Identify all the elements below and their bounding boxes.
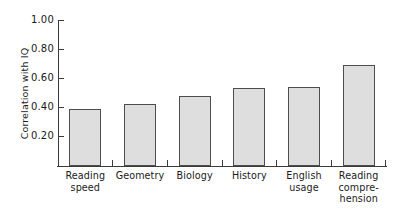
x-tick-mark-3: [276, 160, 277, 166]
x-label-biology: Biology: [167, 170, 222, 182]
x-label-reading-comprehension: Readingcompre-hension: [331, 170, 386, 205]
x-tick-mark-2: [222, 160, 223, 166]
bar-reading-comprehension[interactable]: [343, 65, 375, 166]
x-label-history: History: [222, 170, 277, 182]
bar-reading-speed[interactable]: [69, 109, 101, 166]
y-axis-line: [58, 20, 59, 167]
x-label-reading-speed: Readingspeed: [58, 170, 113, 193]
x-tick-mark-5: [385, 160, 386, 166]
bar-biology[interactable]: [179, 96, 211, 166]
x-axis-line: [57, 166, 387, 167]
y-tick-mark-0-20: [59, 136, 64, 137]
x-label-english-usage: Englishusage: [277, 170, 332, 193]
y-axis-title: Correlation with IQ: [19, 24, 30, 164]
bar-geometry[interactable]: [124, 104, 156, 166]
plot-area: [58, 20, 386, 166]
y-tick-mark-0-60: [59, 78, 64, 79]
x-tick-mark-4: [331, 160, 332, 166]
x-tick-mark-0: [112, 160, 113, 166]
y-tick-mark-0-80: [59, 49, 64, 50]
bar-chart: 1.00 0.80 0.60 0.40 0.20 Correlation wit…: [0, 0, 402, 214]
x-tick-mark-1: [167, 160, 168, 166]
x-axis-category-labels: Readingspeed Geometry Biology History En…: [58, 170, 386, 214]
y-tick-mark-0-40: [59, 107, 64, 108]
bar-english-usage[interactable]: [288, 87, 320, 166]
x-label-geometry: Geometry: [113, 170, 168, 182]
y-tick-mark-1-00: [59, 20, 64, 21]
bar-history[interactable]: [233, 88, 265, 166]
